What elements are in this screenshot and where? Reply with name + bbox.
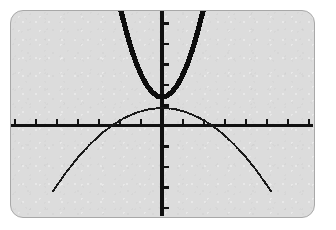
graphing-calculator-screen xyxy=(10,10,315,218)
parabola-plot xyxy=(11,11,313,216)
screenshot-root xyxy=(0,0,336,230)
y-axis-ticks xyxy=(164,23,170,208)
